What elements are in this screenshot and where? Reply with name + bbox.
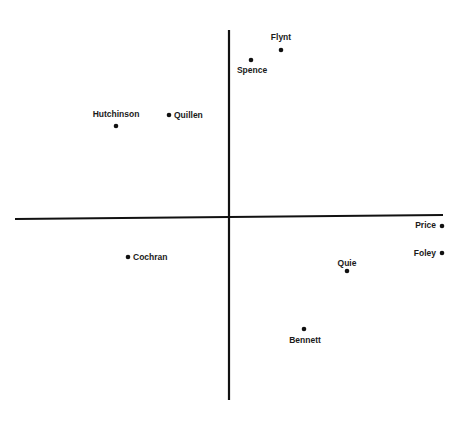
data-point-quillen: Quillen: [167, 110, 203, 120]
point-marker: [114, 124, 119, 129]
point-marker: [249, 58, 254, 63]
point-label: Spence: [237, 65, 268, 75]
point-label: Foley: [414, 248, 436, 258]
point-marker: [302, 327, 307, 332]
data-points: FlyntSpenceHutchinsonQuillenPriceFoleyCo…: [93, 32, 445, 345]
point-label: Quillen: [174, 110, 203, 120]
point-label: Price: [415, 220, 436, 230]
data-point-bennett: Bennett: [289, 327, 321, 345]
point-marker: [126, 255, 131, 260]
data-point-foley: Foley: [414, 248, 445, 258]
data-point-spence: Spence: [237, 58, 268, 75]
point-marker: [345, 269, 350, 274]
point-label: Hutchinson: [93, 109, 140, 119]
point-marker: [167, 113, 172, 118]
point-label: Quie: [338, 258, 357, 268]
point-label: Cochran: [133, 252, 167, 262]
data-point-flynt: Flynt: [271, 32, 291, 52]
scatter-plot: FlyntSpenceHutchinsonQuillenPriceFoleyCo…: [0, 0, 468, 427]
data-point-cochran: Cochran: [126, 252, 168, 262]
data-point-price: Price: [415, 220, 444, 230]
point-marker: [440, 224, 445, 229]
point-marker: [440, 251, 445, 256]
point-label: Flynt: [271, 32, 291, 42]
data-point-quie: Quie: [338, 258, 357, 273]
point-marker: [279, 48, 284, 53]
data-point-hutchinson: Hutchinson: [93, 109, 140, 128]
point-label: Bennett: [289, 335, 321, 345]
